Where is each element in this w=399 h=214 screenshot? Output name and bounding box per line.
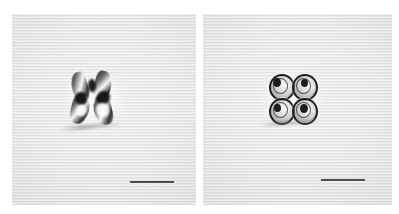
specimen-nucleus-lower-left — [274, 104, 281, 112]
specimen-butterfly-shaped-microalga — [58, 64, 130, 138]
micrograph-panel-right — [203, 14, 392, 205]
specimen-nucleus-upper-left — [273, 78, 281, 87]
specimen-core-left — [75, 92, 87, 105]
micrograph-panel-left — [12, 14, 196, 205]
specimen-nucleus-lower-right — [300, 104, 308, 113]
specimen-highlight-center — [89, 94, 95, 104]
micrograph-figure — [0, 0, 399, 214]
specimen-core-upper-mid — [88, 79, 96, 92]
scale-bar-right — [321, 179, 365, 181]
scale-bar-left — [130, 181, 174, 183]
specimen-tetrad-four-celled-colony — [254, 61, 330, 135]
specimen-highlight-right — [96, 103, 109, 117]
specimen-shadow-streak — [260, 119, 320, 127]
specimen-nucleus-upper-right — [301, 79, 308, 87]
specimen-shadow-streak — [60, 121, 122, 131]
